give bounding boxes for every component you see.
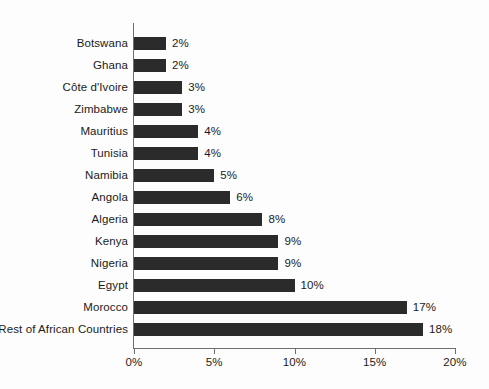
bar	[134, 279, 295, 292]
category-label: Angola	[92, 191, 128, 203]
category-label: Egypt	[98, 279, 128, 291]
category-label: Botswana	[77, 37, 128, 49]
category-label: Ghana	[93, 59, 128, 71]
bar-row: Algeria8%	[0, 210, 489, 232]
bar	[134, 59, 166, 72]
bar-row: Morocco17%	[0, 298, 489, 320]
bar-row: Tunisia4%	[0, 144, 489, 166]
bar-value-label: 9%	[284, 257, 301, 269]
bar	[134, 257, 278, 270]
bar-value-label: 4%	[204, 125, 221, 137]
bar	[134, 103, 182, 116]
bar-value-label: 2%	[172, 59, 189, 71]
x-axis-tick	[134, 349, 135, 354]
bar-value-label: 10%	[301, 279, 324, 291]
bar	[134, 323, 423, 336]
bar-row: Ghana2%	[0, 56, 489, 78]
bar-row: Namibia5%	[0, 166, 489, 188]
x-axis-tick	[214, 349, 215, 354]
bar-chart: 0%5%10%15%20% Botswana2%Ghana2%Côte d'Iv…	[0, 0, 489, 389]
bar-row: Kenya9%	[0, 232, 489, 254]
bar	[134, 37, 166, 50]
bar	[134, 147, 198, 160]
bar	[134, 169, 214, 182]
bar-value-label: 3%	[188, 103, 205, 115]
bar-row: Egypt10%	[0, 276, 489, 298]
category-label: Rest of African Countries	[0, 323, 128, 335]
x-axis-tick	[455, 349, 456, 354]
category-label: Côte d'Ivoire	[63, 81, 129, 93]
bar-value-label: 4%	[204, 147, 221, 159]
bar-value-label: 6%	[236, 191, 253, 203]
category-label: Namibia	[85, 169, 128, 181]
bar-row: Zimbabwe3%	[0, 100, 489, 122]
bar-row: Côte d'Ivoire3%	[0, 78, 489, 100]
bar-row: Mauritius4%	[0, 122, 489, 144]
bar-row: Botswana2%	[0, 34, 489, 56]
bar	[134, 213, 262, 226]
bar-row: Rest of African Countries18%	[0, 320, 489, 342]
bar-value-label: 17%	[413, 301, 436, 313]
bar-row: Nigeria9%	[0, 254, 489, 276]
category-label: Mauritius	[80, 125, 128, 137]
x-axis-tick	[375, 349, 376, 354]
bar-value-label: 9%	[284, 235, 301, 247]
bar-value-label: 2%	[172, 37, 189, 49]
bar-value-label: 18%	[429, 323, 452, 335]
x-axis-tick-label: 15%	[363, 356, 386, 368]
bar	[134, 191, 230, 204]
category-label: Nigeria	[91, 257, 128, 269]
x-axis-tick-label: 20%	[443, 356, 466, 368]
bar-row: Angola6%	[0, 188, 489, 210]
x-axis-tick-label: 5%	[206, 356, 223, 368]
x-axis-tick-label: 0%	[126, 356, 143, 368]
category-label: Zimbabwe	[74, 103, 128, 115]
bar-value-label: 3%	[188, 81, 205, 93]
x-axis-tick-label: 10%	[283, 356, 306, 368]
bar	[134, 81, 182, 94]
bar	[134, 301, 407, 314]
bar-value-label: 8%	[268, 213, 285, 225]
category-label: Morocco	[83, 301, 128, 313]
bar	[134, 125, 198, 138]
bar	[134, 235, 278, 248]
category-label: Algeria	[92, 213, 129, 225]
bar-value-label: 5%	[220, 169, 237, 181]
x-axis-tick	[295, 349, 296, 354]
category-label: Tunisia	[91, 147, 128, 159]
plot-area: 0%5%10%15%20% Botswana2%Ghana2%Côte d'Iv…	[0, 0, 489, 389]
category-label: Kenya	[95, 235, 128, 247]
